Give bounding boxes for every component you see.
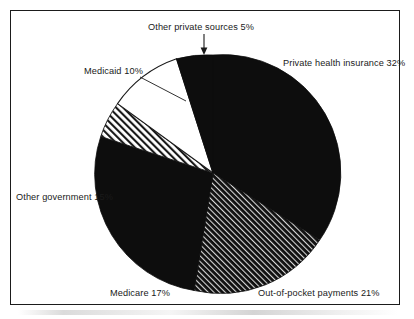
pie-label-private-health-insurance: Private health insurance 32%: [283, 58, 405, 68]
pie-label-out-of-pocket-payments: Out-of-pocket payments 21%: [258, 288, 380, 298]
pie-label-other-government: Other government 15%: [16, 192, 113, 202]
other-private-sources-arrow-icon: [201, 34, 208, 55]
pie-label-other-private-sources: Other private sources 5%: [148, 22, 254, 32]
pie-chart: [0, 0, 414, 319]
pie-slices: [95, 55, 341, 294]
pie-label-medicare: Medicare 17%: [110, 288, 170, 298]
scan-artifact: [18, 310, 398, 315]
pie-label-medicaid: Medicaid 10%: [84, 66, 143, 76]
chart-page: Other private sources 5% Private health …: [0, 0, 414, 319]
